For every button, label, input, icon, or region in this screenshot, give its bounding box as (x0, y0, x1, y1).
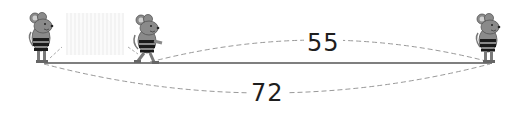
upper-distance-label: 55 (304, 31, 343, 55)
distance-diagram: 55 72 (0, 0, 530, 117)
mouse-1-icon (29, 13, 53, 64)
lower-distance-label: 72 (248, 81, 287, 105)
mouse-3-icon (476, 14, 500, 64)
mouse-2-icon (134, 15, 162, 65)
